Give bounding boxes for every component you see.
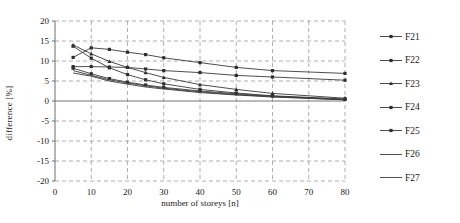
y-tick-label: -10 (37, 136, 49, 146)
y-tick-label: -20 (37, 176, 49, 186)
x-tick-label: 20 (123, 187, 133, 197)
y-tick-label: -5 (42, 116, 50, 126)
legend-marker-icon (380, 173, 402, 182)
legend-marker-icon (380, 103, 402, 112)
legend-item-f21[interactable]: F21 (380, 30, 420, 42)
legend-label: F26 (405, 148, 420, 160)
series-f24 (73, 46, 345, 99)
x-tick-label: 30 (159, 187, 169, 197)
legend-marker-icon (380, 79, 402, 88)
x-tick-label: 10 (87, 187, 97, 197)
legend-marker-icon (380, 32, 402, 41)
y-tick-label: 15 (40, 36, 50, 46)
legend-label: F23 (405, 78, 420, 90)
legend-label: F21 (405, 31, 420, 43)
x-tick-label: 50 (232, 187, 242, 197)
x-tick-label: 70 (304, 187, 314, 197)
chart-figure: difference [%] number of storeys [n] 201… (0, 0, 460, 223)
legend-item-f25[interactable]: F25 (380, 124, 420, 136)
y-tick-label: 20 (40, 16, 50, 26)
legend-item-f22[interactable]: F22 (380, 54, 420, 66)
legend-label: F27 (405, 172, 420, 184)
series-f22 (73, 67, 345, 81)
legend-marker-icon (380, 126, 402, 135)
legend-item-f27[interactable]: F27 (380, 171, 420, 183)
legend-item-f23[interactable]: F23 (380, 77, 420, 89)
legend-item-f24[interactable]: F24 (380, 101, 420, 113)
y-tick-label: 10 (40, 56, 50, 66)
x-tick-label: 60 (268, 187, 278, 197)
x-tick-label: 0 (53, 187, 58, 197)
legend-marker-icon (380, 150, 402, 159)
legend-item-f26[interactable]: F26 (380, 148, 420, 160)
y-tick-label: -15 (37, 156, 49, 166)
y-tick-label: 5 (45, 76, 50, 86)
x-tick-label: 40 (196, 187, 206, 197)
legend-label: F22 (405, 54, 420, 66)
legend-marker-icon (380, 56, 402, 65)
legend-label: F25 (405, 125, 420, 137)
y-tick-label: 0 (45, 96, 50, 106)
x-tick-label: 80 (341, 187, 351, 197)
legend-label: F24 (405, 101, 420, 113)
